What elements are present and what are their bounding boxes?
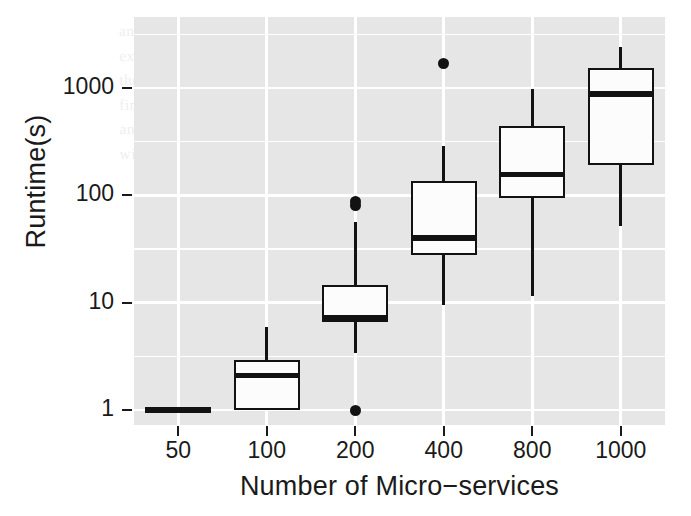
boxplot-median-line xyxy=(588,91,654,96)
boxplot-group xyxy=(134,17,665,425)
y-axis-tick-label: 100 xyxy=(6,180,114,207)
x-axis-tick-mark xyxy=(266,426,268,436)
y-axis-tick-mark xyxy=(122,194,132,196)
x-axis-tick-mark xyxy=(443,426,445,436)
x-axis-tick-label: 1000 xyxy=(561,437,681,464)
boxplot-figure: and to the of system supporting the the … xyxy=(0,0,691,516)
y-axis-tick-mark xyxy=(122,409,132,411)
y-axis-tick-mark xyxy=(122,87,132,89)
plot-panel xyxy=(134,17,665,425)
boxplot-box xyxy=(588,68,654,166)
x-axis-tick-mark xyxy=(531,426,533,436)
y-axis-tick-label: 1 xyxy=(6,395,114,422)
boxplot-whisker-lower xyxy=(619,165,622,225)
boxplot-whisker-upper xyxy=(619,47,622,67)
y-axis-tick-label: 10 xyxy=(6,288,114,315)
y-axis-tick-mark xyxy=(122,302,132,304)
x-axis-tick-mark xyxy=(177,426,179,436)
x-axis-title: Number of Micro−services xyxy=(134,471,665,502)
x-axis-tick-mark xyxy=(620,426,622,436)
y-axis-tick-label: 1000 xyxy=(6,73,114,100)
x-axis-tick-mark xyxy=(354,426,356,436)
